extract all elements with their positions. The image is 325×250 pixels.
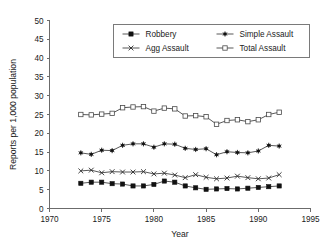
marker-shape	[120, 182, 124, 186]
marker-shape	[110, 111, 114, 115]
marker-shape	[193, 113, 197, 117]
y-tick-label: 45	[34, 35, 44, 44]
marker-open-square	[267, 112, 271, 116]
marker-open-square	[193, 113, 197, 117]
marker-filled-square	[162, 179, 166, 183]
marker-core	[111, 149, 114, 152]
marker-core	[224, 33, 227, 36]
marker-shape	[129, 32, 133, 36]
marker-open-square	[162, 106, 166, 110]
legend-item-label: Agg Assault	[146, 44, 190, 53]
marker-shape	[235, 118, 239, 122]
marker-shape	[100, 112, 104, 116]
y-tick-label: 10	[34, 167, 44, 176]
y-tick-label: 25	[34, 111, 44, 120]
marker-open-square	[100, 112, 104, 116]
marker-core	[132, 143, 135, 146]
marker-open-square	[110, 111, 114, 115]
marker-shape	[256, 185, 260, 189]
marker-filled-square	[246, 186, 250, 190]
marker-star	[214, 152, 219, 157]
x-tick-label: 1995	[301, 215, 320, 224]
marker-shape	[183, 184, 187, 188]
marker-shape	[152, 182, 156, 186]
marker-shape	[214, 187, 218, 191]
marker-core	[215, 153, 218, 156]
line-chart: 05101520253035404550 1970197519801985199…	[0, 0, 325, 250]
marker-shape	[183, 114, 187, 118]
marker-filled-square	[79, 181, 83, 185]
marker-open-square	[131, 105, 135, 109]
y-tick-label: 15	[34, 148, 44, 157]
marker-open-square	[235, 118, 239, 122]
marker-filled-square	[89, 180, 93, 184]
series-robbery	[79, 179, 282, 191]
data-series-group	[78, 104, 281, 191]
marker-open-square	[183, 114, 187, 118]
x-tick-label: 1970	[40, 215, 59, 224]
marker-shape	[173, 107, 177, 111]
marker-shape	[277, 172, 282, 177]
marker-core	[153, 146, 156, 149]
marker-core	[278, 145, 281, 148]
marker-open-square	[223, 46, 227, 50]
marker-shape	[194, 186, 198, 190]
marker-shape	[131, 105, 135, 109]
marker-filled-square	[194, 186, 198, 190]
legend-item-label: Robbery	[146, 30, 178, 39]
marker-shape	[89, 180, 93, 184]
marker-shape	[89, 113, 93, 117]
marker-shape	[256, 118, 260, 122]
marker-shape	[152, 109, 156, 113]
legend-item-label: Total Assault	[240, 44, 287, 53]
marker-filled-square	[131, 184, 135, 188]
marker-shape	[141, 104, 145, 108]
x-axis-ticks: 197019751980198519901995	[40, 209, 320, 224]
marker-core	[100, 149, 103, 152]
y-axis-title: Reports per 1,000 population	[8, 59, 18, 170]
marker-filled-square	[183, 184, 187, 188]
series-simple-assault	[79, 141, 282, 157]
marker-core	[194, 148, 197, 151]
marker-shape	[120, 106, 124, 110]
marker-core	[121, 144, 124, 147]
marker-core	[267, 144, 270, 147]
chart-container: 05101520253035404550 1970197519801985199…	[0, 0, 325, 250]
marker-shape	[79, 181, 83, 185]
marker-filled-square	[120, 182, 124, 186]
marker-filled-square	[277, 184, 281, 188]
marker-core	[142, 143, 145, 146]
marker-star	[152, 145, 157, 150]
marker-shape	[225, 118, 229, 122]
marker-shape	[235, 187, 239, 191]
marker-filled-square	[173, 180, 177, 184]
marker-shape	[204, 115, 208, 119]
marker-open-square	[204, 115, 208, 119]
y-axis-ticks: 05101520253035404550	[34, 17, 49, 214]
marker-open-square	[256, 118, 260, 122]
marker-shape	[246, 119, 250, 123]
marker-open-square	[277, 110, 281, 114]
marker-shape	[100, 180, 104, 184]
marker-shape	[225, 186, 229, 190]
y-tick-label: 30	[34, 92, 44, 101]
marker-filled-square	[100, 180, 104, 184]
marker-shape	[110, 182, 114, 186]
marker-core	[90, 153, 93, 156]
marker-core	[174, 143, 177, 146]
marker-core	[247, 152, 250, 155]
marker-shape	[79, 112, 83, 116]
marker-core	[80, 152, 83, 155]
marker-shape	[214, 122, 218, 126]
legend-item-label: Simple Assault	[240, 30, 294, 39]
marker-core	[184, 147, 187, 150]
marker-core	[163, 143, 166, 146]
marker-open-square	[120, 106, 124, 110]
marker-open-square	[225, 118, 229, 122]
marker-core	[226, 150, 229, 153]
marker-shape	[267, 185, 271, 189]
y-tick-label: 50	[34, 17, 44, 26]
marker-shape	[277, 184, 281, 188]
marker-core	[257, 150, 260, 153]
marker-core	[205, 147, 208, 150]
